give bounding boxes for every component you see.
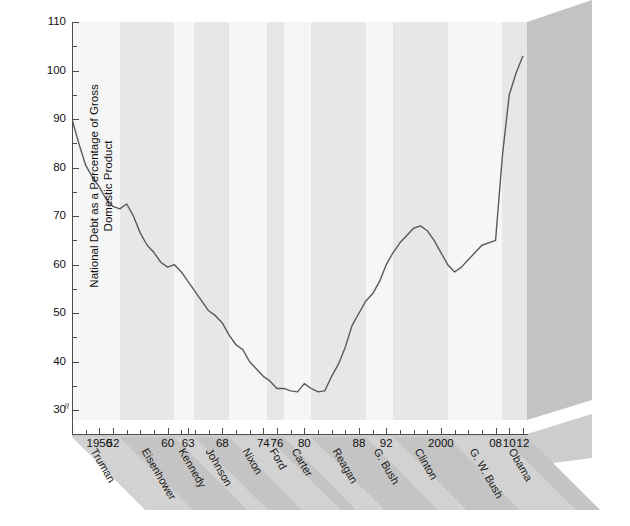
x-tick: [222, 428, 223, 434]
x-tick: [263, 428, 264, 434]
x-tick-minor: [250, 430, 251, 434]
x-tick-minor: [468, 430, 469, 434]
x-tick: [99, 428, 100, 434]
y-tick: [73, 313, 79, 314]
x-tick: [523, 428, 524, 434]
x-tick-minor: [127, 430, 128, 434]
y-tick-label: 70: [32, 209, 66, 221]
x-tick-minor: [86, 430, 87, 434]
y-tick-label: 80: [32, 161, 66, 173]
y-tick: [73, 216, 79, 217]
x-tick: [168, 428, 169, 434]
x-tick-minor: [195, 430, 196, 434]
x-axis-line: [72, 434, 528, 435]
y-tick: [73, 168, 79, 169]
y-tick: [73, 119, 79, 120]
x-tick-minor: [345, 430, 346, 434]
x-tick: [441, 428, 442, 434]
y-tick-minor: [73, 46, 77, 47]
x-tick: [304, 428, 305, 434]
x-tick: [386, 428, 387, 434]
y-tick-label: 100: [32, 64, 66, 76]
y-tick: [73, 362, 79, 363]
x-tick-minor: [236, 430, 237, 434]
x-tick-minor: [291, 430, 292, 434]
x-tick-minor: [414, 430, 415, 434]
x-tick-label: 92: [366, 437, 406, 449]
x-tick: [277, 428, 278, 434]
x-tick: [509, 428, 510, 434]
y-tick-minor: [73, 95, 77, 96]
y-tick: [73, 410, 79, 411]
y-tick-minor: [73, 289, 77, 290]
x-tick-label: 80: [284, 437, 324, 449]
x-tick-minor: [140, 430, 141, 434]
y-tick-label: 40: [32, 355, 66, 367]
x-tick: [496, 428, 497, 434]
y-tick-label: 50: [32, 306, 66, 318]
y-axis-break-symbol: ≈: [60, 403, 74, 410]
x-tick-label: 12: [503, 437, 543, 449]
x-tick-minor: [427, 430, 428, 434]
y-tick-label: 90: [32, 112, 66, 124]
y-tick-minor: [73, 337, 77, 338]
x-tick-minor: [400, 430, 401, 434]
y-tick-minor: [73, 143, 77, 144]
x-tick-minor: [332, 430, 333, 434]
x-tick-minor: [373, 430, 374, 434]
y-tick: [73, 265, 79, 266]
x-tick-minor: [154, 430, 155, 434]
y-axis-line: [72, 22, 73, 434]
figure-caption: [0, 512, 630, 526]
x-tick-minor: [318, 430, 319, 434]
y-tick-minor: [73, 240, 77, 241]
x-tick: [113, 428, 114, 434]
series-line: [72, 56, 523, 392]
y-tick: [73, 71, 79, 72]
plot-area: [72, 22, 527, 420]
y-tick-label: 60: [32, 258, 66, 270]
x-tick-label: 68: [202, 437, 242, 449]
y-tick: [73, 22, 79, 23]
x-tick-label: 2000: [421, 437, 461, 449]
x-tick-minor: [455, 430, 456, 434]
x-tick-minor: [181, 430, 182, 434]
x-tick: [188, 428, 189, 434]
y-tick-label: 110: [32, 15, 66, 27]
y-tick-minor: [73, 192, 77, 193]
y-axis-title: National Debt as a Percentage of Gross D…: [87, 61, 115, 311]
debt-line-series: [72, 22, 527, 420]
x-tick-minor: [482, 430, 483, 434]
x-tick-minor: [209, 430, 210, 434]
x-tick: [359, 428, 360, 434]
y-tick-minor: [73, 386, 77, 387]
chart-figure: 30405060708090100110 National Debt as a …: [0, 0, 630, 526]
